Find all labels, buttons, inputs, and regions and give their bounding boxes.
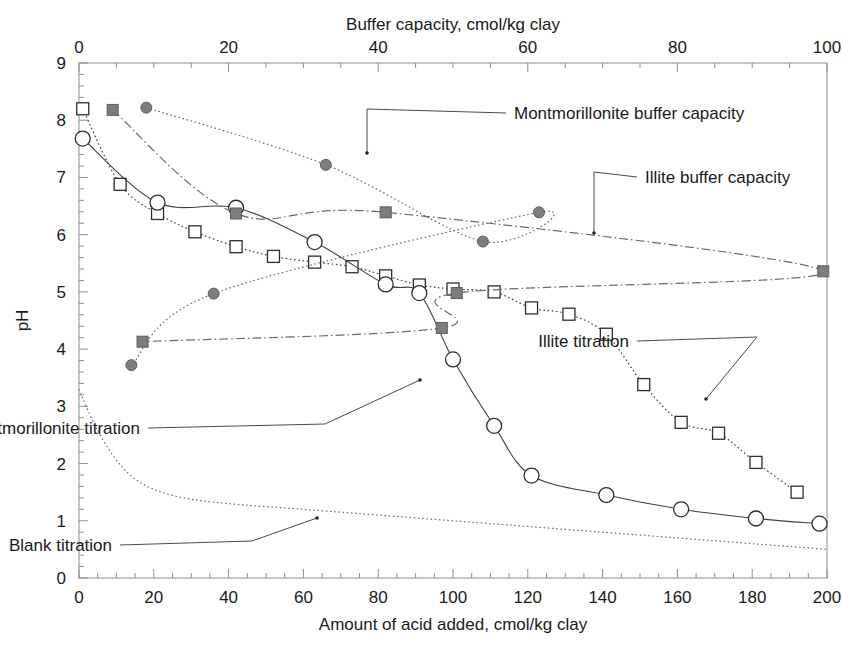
marker-open-circle xyxy=(412,286,427,301)
marker-open-circle xyxy=(446,352,461,367)
left-tick-label: 7 xyxy=(57,168,66,187)
marker-filled-square xyxy=(107,104,118,115)
marker-open-square xyxy=(791,486,803,498)
top-tick-label: 20 xyxy=(219,38,238,57)
marker-open-circle xyxy=(150,195,165,210)
series-blank-titration xyxy=(79,389,827,549)
top-tick-label: 60 xyxy=(518,38,537,57)
marker-open-square xyxy=(77,103,89,115)
annotation-label: Illite titration xyxy=(538,332,629,351)
series-line xyxy=(79,389,827,549)
marker-filled-circle xyxy=(477,236,488,247)
bottom-tick-label: 100 xyxy=(439,588,467,607)
left-tick-label: 2 xyxy=(57,455,66,474)
marker-open-square xyxy=(309,256,321,268)
series-line xyxy=(83,139,820,524)
marker-open-square xyxy=(189,226,201,238)
bottom-axis-label: Amount of acid added, cmol/kg clay xyxy=(319,615,588,634)
marker-open-circle xyxy=(307,235,322,250)
marker-open-circle xyxy=(487,418,502,433)
marker-open-square xyxy=(675,416,687,428)
annotation-anchor-dot xyxy=(704,397,708,401)
chart-figure: 020406080100120140160180200Amount of aci… xyxy=(0,0,842,663)
annotation-blank-titration: Blank titration xyxy=(9,516,319,555)
annotation-label: Montmorillonite titration xyxy=(0,419,140,438)
bottom-tick-label: 20 xyxy=(144,588,163,607)
marker-open-square xyxy=(750,456,762,468)
left-tick-label: 6 xyxy=(57,226,66,245)
marker-filled-square xyxy=(436,322,447,333)
marker-open-square xyxy=(713,427,725,439)
bottom-tick-label: 0 xyxy=(74,588,83,607)
series-line xyxy=(83,109,797,492)
annotation-leader-line xyxy=(148,380,420,428)
annotation-leader-line xyxy=(594,172,637,233)
annotation-leader-line xyxy=(120,518,317,545)
bottom-tick-label: 160 xyxy=(663,588,691,607)
marker-filled-circle xyxy=(126,360,137,371)
left-tick-label: 9 xyxy=(57,54,66,73)
marker-filled-circle xyxy=(320,159,331,170)
marker-open-square xyxy=(563,308,575,320)
top-tick-label: 40 xyxy=(369,38,388,57)
marker-open-circle xyxy=(812,516,827,531)
bottom-axis: 020406080100120140160180200Amount of aci… xyxy=(74,569,841,634)
annotation-anchor-dot xyxy=(418,378,422,382)
left-tick-label: 8 xyxy=(57,111,66,130)
bottom-tick-label: 120 xyxy=(514,588,542,607)
left-tick-label: 3 xyxy=(57,397,66,416)
left-tick-label: 1 xyxy=(57,512,66,531)
series-line xyxy=(113,110,824,342)
marker-filled-square xyxy=(380,207,391,218)
top-tick-label: 0 xyxy=(74,38,83,57)
left-tick-label: 0 xyxy=(57,569,66,588)
annotation-anchor-dot xyxy=(592,231,596,235)
marker-open-square xyxy=(114,178,126,190)
marker-filled-square xyxy=(137,336,148,347)
plot-frame xyxy=(79,63,827,578)
annotation-leader-line xyxy=(367,109,506,153)
marker-filled-square xyxy=(231,208,242,219)
annotation-anchor-dot xyxy=(365,151,369,155)
top-tick-label: 100 xyxy=(813,38,841,57)
marker-open-circle xyxy=(524,468,539,483)
marker-open-circle xyxy=(75,131,90,146)
bottom-tick-label: 40 xyxy=(219,588,238,607)
left-tick-label: 5 xyxy=(57,283,66,302)
bottom-tick-label: 180 xyxy=(738,588,766,607)
bottom-tick-label: 60 xyxy=(294,588,313,607)
titration-buffer-capacity-chart: 020406080100120140160180200Amount of aci… xyxy=(0,0,842,663)
series-illite-buffer-capacity xyxy=(107,104,829,347)
bottom-tick-label: 140 xyxy=(588,588,616,607)
marker-open-square xyxy=(267,250,279,262)
marker-open-square xyxy=(230,241,242,253)
annotation-leader-line xyxy=(637,337,757,399)
left-axis-label: pH xyxy=(13,310,32,332)
marker-open-circle xyxy=(599,488,614,503)
marker-filled-circle xyxy=(534,207,545,218)
marker-open-square xyxy=(638,379,650,391)
left-tick-label: 4 xyxy=(57,340,66,359)
series-illite-titration xyxy=(77,103,803,498)
bottom-tick-label: 200 xyxy=(813,588,841,607)
annotation-montmorillonite-buffer-capacity: Montmorillonite buffer capacity xyxy=(365,104,745,155)
series-montmorillonite-titration xyxy=(75,131,827,531)
marker-open-circle xyxy=(674,502,689,517)
marker-filled-square xyxy=(451,288,462,299)
top-axis-label: Buffer capacity, cmol/kg clay xyxy=(346,15,560,34)
bottom-tick-label: 80 xyxy=(369,588,388,607)
annotation-label: Illite buffer capacity xyxy=(645,168,791,187)
marker-filled-circle xyxy=(208,288,219,299)
marker-open-square xyxy=(488,286,500,298)
marker-open-square xyxy=(526,302,538,314)
marker-open-circle xyxy=(378,277,393,292)
top-tick-label: 80 xyxy=(668,38,687,57)
marker-filled-circle xyxy=(141,102,152,113)
annotation-anchor-dot xyxy=(315,516,319,520)
annotation-illite-buffer-capacity: Illite buffer capacity xyxy=(592,168,791,235)
annotation-label: Montmorillonite buffer capacity xyxy=(514,104,745,123)
marker-open-circle xyxy=(748,511,763,526)
marker-filled-square xyxy=(818,266,829,277)
annotation-label: Blank titration xyxy=(9,536,112,555)
